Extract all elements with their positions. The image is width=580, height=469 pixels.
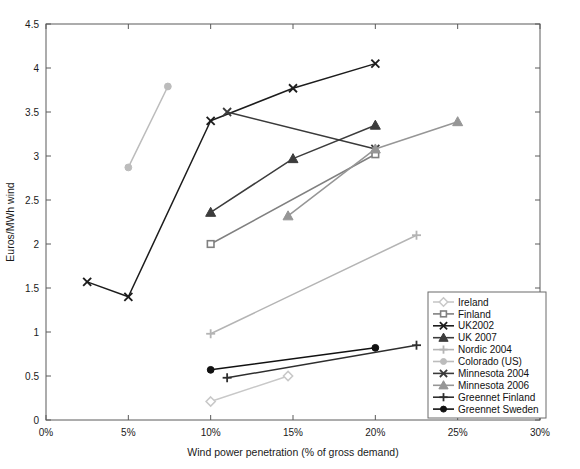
marker-square [441,311,447,317]
legend-label: UK2002 [458,320,495,331]
y-axis-tick-label: 3.5 [25,107,39,118]
series-minnesota-2004 [223,108,379,153]
legend-label: Nordic 2004 [458,344,512,355]
x-axis-tick-label: 20% [365,427,385,438]
marker-triangle [283,211,293,220]
series-colorado-us [125,83,171,171]
x-axis-tick-label: 0% [39,427,54,438]
marker-circle [441,359,447,365]
marker-triangle [370,120,380,129]
x-axis-tick-label: 15% [283,427,303,438]
series-polyline [227,112,375,149]
y-axis-tick-label: 4.5 [25,19,39,30]
legend-label: UK 2007 [458,332,497,343]
marker-circle [441,406,447,412]
x-axis-tick-label: 25% [448,427,468,438]
legend-label: Ireland [458,297,489,308]
series-nordic-2004 [206,231,421,339]
y-axis-tick-label: 2 [33,239,39,250]
marker-square [207,241,214,248]
y-axis-tick-label: 0.5 [25,371,39,382]
y-axis-tick-label: 0 [33,415,39,426]
series-greennet-finland [223,341,421,383]
marker-diamond [206,397,215,406]
y-axis-tick-label: 3 [33,151,39,162]
series-polyline [211,235,417,334]
series-polyline [227,345,416,378]
legend-label: Greennet Sweden [458,404,539,415]
y-axis-title: Euros/MWh wind [4,182,16,262]
x-axis-tick-label: 5% [121,427,136,438]
legend-label: Greennet Finland [458,392,535,403]
x-axis-tick-label: 30% [530,427,550,438]
y-axis-tick-label: 1.5 [25,283,39,294]
legend-label: Minnesota 2006 [458,380,530,391]
series-greennet-sweden [207,344,378,373]
legend-item-uk-2007[interactable]: UK 2007 [433,332,497,343]
y-axis-tick-label: 2.5 [25,195,39,206]
legend-label: Finland [458,309,491,320]
marker-circle [372,344,379,351]
y-axis-tick-label: 4 [33,63,39,74]
chart-legend: IrelandFinlandUK2002UK 2007Nordic 2004Co… [428,292,546,418]
series-polyline [288,122,458,216]
series-polyline [211,376,288,402]
marker-triangle [453,117,463,126]
legend-label: Minnesota 2004 [458,368,530,379]
line-chart: 00.511.522.533.544.50%5%10%15%20%25%30%W… [0,0,580,469]
chart-figure: 00.511.522.533.544.50%5%10%15%20%25%30%W… [0,0,580,469]
marker-circle [164,83,171,90]
marker-circle [207,366,214,373]
x-axis-tick-label: 10% [201,427,221,438]
marker-circle [125,164,132,171]
series-ireland [206,371,293,406]
marker-triangle [206,207,216,216]
y-axis-tick-label: 1 [33,327,39,338]
series-uk-2007 [206,120,381,216]
x-axis-title: Wind power penetration (% of gross deman… [187,446,398,458]
series-polyline [87,64,375,297]
series-polyline [128,86,168,167]
legend-label: Colorado (US) [458,356,522,367]
marker-triangle [288,154,298,163]
marker-diamond [283,371,292,380]
